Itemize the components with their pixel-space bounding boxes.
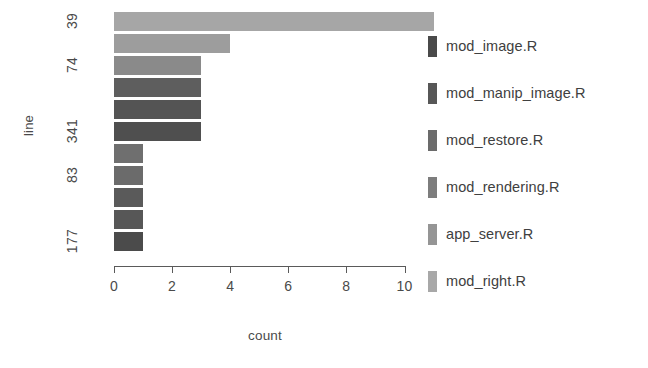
x-axis-line xyxy=(114,266,405,267)
x-axis-tick-label: 4 xyxy=(215,278,245,294)
x-axis-tick-mark xyxy=(172,266,173,273)
legend-item[interactable]: mod_image.R xyxy=(428,34,642,58)
x-axis-tick-label: 10 xyxy=(390,278,420,294)
bar xyxy=(114,12,434,31)
x-axis-tick-mark xyxy=(346,266,347,273)
x-axis-tick-label: 0 xyxy=(99,278,129,294)
bar-chart-plot: line 397434183177 0246810 count mod_imag… xyxy=(0,0,648,368)
y-axis-tick-label: 83 xyxy=(64,158,80,192)
x-axis-tick-mark xyxy=(288,266,289,273)
legend-item-label: mod_manip_image.R xyxy=(446,85,586,101)
legend-item[interactable]: mod_right.R xyxy=(428,269,642,293)
legend-color-swatch xyxy=(428,130,437,151)
x-axis-tick-label: 2 xyxy=(157,278,187,294)
bar xyxy=(114,56,201,75)
legend-item-label: mod_image.R xyxy=(446,38,537,54)
legend-color-swatch xyxy=(428,177,437,198)
bar xyxy=(114,144,143,163)
bar xyxy=(114,100,201,119)
legend-item[interactable]: mod_restore.R xyxy=(428,128,642,152)
legend-item-label: mod_right.R xyxy=(446,273,526,289)
y-axis-tick-label: 341 xyxy=(64,114,80,148)
bar xyxy=(114,232,143,251)
x-axis-tick-mark xyxy=(114,266,115,273)
bar xyxy=(114,78,201,97)
legend-item-label: app_server.R xyxy=(446,226,533,242)
legend-color-swatch xyxy=(428,224,437,245)
y-axis-tick-label: 39 xyxy=(64,4,80,38)
bar xyxy=(114,34,230,53)
legend-item[interactable]: mod_rendering.R xyxy=(428,175,642,199)
bar xyxy=(114,122,201,141)
x-axis-title: count xyxy=(248,328,282,343)
legend-item-label: mod_rendering.R xyxy=(446,179,560,195)
x-axis-tick-label: 6 xyxy=(273,278,303,294)
legend-item-label: mod_restore.R xyxy=(446,132,543,148)
bar xyxy=(114,210,143,229)
legend-item[interactable]: mod_manip_image.R xyxy=(428,81,642,105)
legend-color-swatch xyxy=(428,271,437,292)
x-axis-tick-mark xyxy=(405,266,406,273)
y-axis-tick-label: 177 xyxy=(64,224,80,258)
legend-color-swatch xyxy=(428,36,437,57)
bar xyxy=(114,166,143,185)
y-axis-title: line xyxy=(21,106,36,146)
legend-color-swatch xyxy=(428,83,437,104)
x-axis-tick-label: 8 xyxy=(331,278,361,294)
x-axis-tick-mark xyxy=(230,266,231,273)
legend: mod_image.Rmod_manip_image.Rmod_restore.… xyxy=(428,34,642,316)
bar xyxy=(114,188,143,207)
legend-item[interactable]: app_server.R xyxy=(428,222,642,246)
y-axis-tick-label: 74 xyxy=(64,48,80,82)
